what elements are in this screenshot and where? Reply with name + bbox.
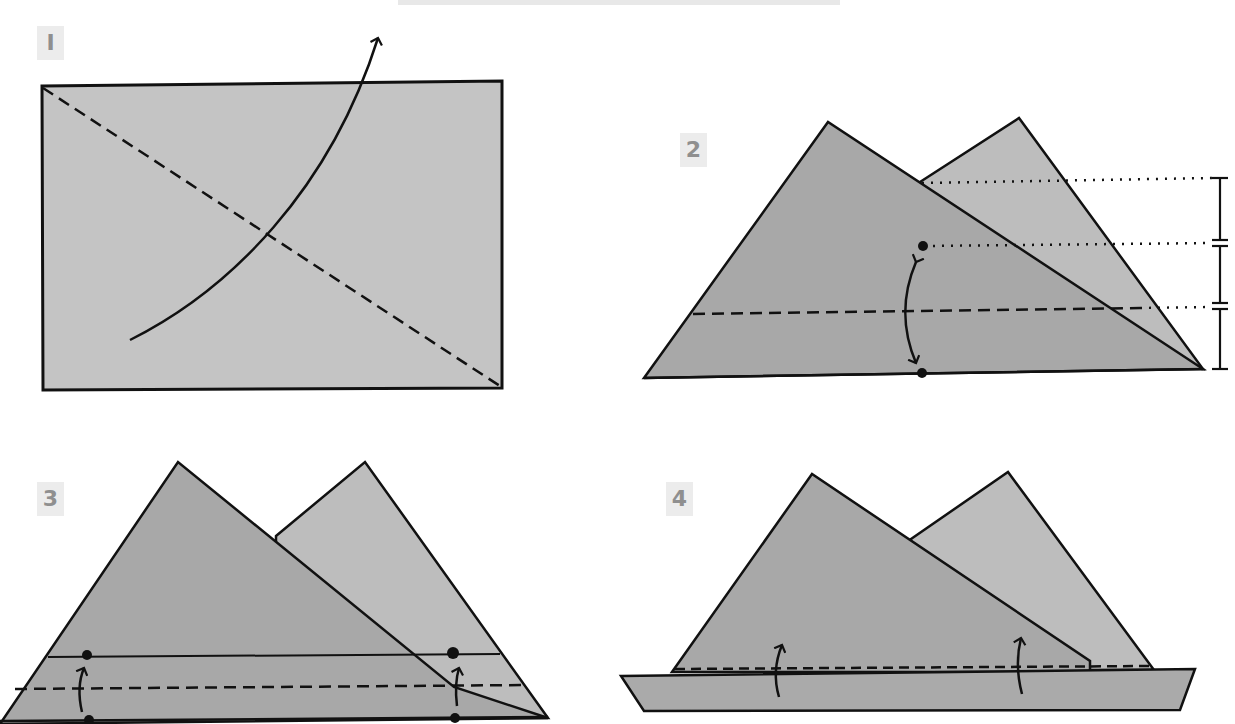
reference-dot-bottom (917, 368, 927, 378)
reference-dot (82, 650, 92, 660)
equal-measure-bracket (1212, 178, 1228, 369)
reference-dot (450, 713, 460, 723)
origami-diagram (0, 0, 1235, 724)
step-2-diagram (644, 118, 1228, 378)
reference-dot (447, 647, 459, 659)
step-4-diagram (621, 472, 1195, 711)
brim-strip (621, 669, 1195, 711)
step-1-diagram (42, 38, 502, 390)
reference-dot-top (918, 241, 928, 251)
step-3-diagram (0, 462, 548, 724)
